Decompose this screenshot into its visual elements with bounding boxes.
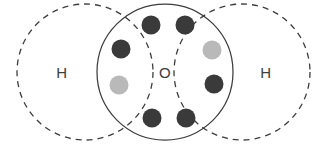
atom-label-hydrogen-left: H	[56, 64, 67, 81]
electron-dot-top-left	[142, 16, 161, 35]
electron-dot-upper-right-bond	[203, 41, 222, 60]
atom-label-oxygen: O	[159, 64, 171, 81]
electron-dot-lower-left-bond	[110, 76, 129, 95]
electron-dot-lower-right-bond	[205, 75, 224, 94]
electron-dot-bottom-left	[143, 109, 162, 128]
electron-dot-bottom-right	[177, 109, 196, 128]
water-molecule-diagram: H O H	[0, 0, 324, 144]
atom-label-hydrogen-right: H	[260, 64, 271, 81]
electron-dot-top-right	[176, 16, 195, 35]
electron-dot-upper-left-bond	[112, 40, 131, 59]
molecule-svg-canvas: H O H	[0, 0, 324, 144]
